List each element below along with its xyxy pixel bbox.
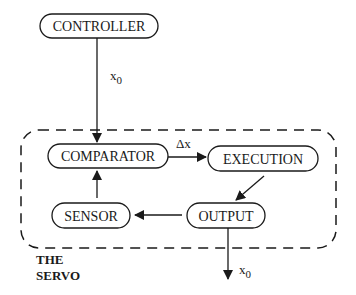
execution-node: EXECUTION xyxy=(208,146,318,171)
arrow-execution-to-output xyxy=(236,176,264,200)
servo-diagram: CONTROLLER x0 COMPARATOR Δx EXECUTION OU… xyxy=(0,0,356,295)
sensor-label: SENSOR xyxy=(64,209,118,224)
x0-output-label: x0 xyxy=(239,262,252,280)
controller-label: CONTROLLER xyxy=(53,19,146,34)
output-node: OUTPUT xyxy=(187,203,265,228)
servo-title-line2: SERVO xyxy=(36,268,80,283)
comparator-node: COMPARATOR xyxy=(48,144,168,168)
delta-x-label: Δx xyxy=(176,136,191,151)
controller-node: CONTROLLER xyxy=(40,14,158,38)
sensor-node: SENSOR xyxy=(52,203,130,228)
x0-input-label: x0 xyxy=(110,68,123,86)
execution-label: EXECUTION xyxy=(223,152,303,167)
comparator-label: COMPARATOR xyxy=(61,149,156,164)
servo-title-line1: THE xyxy=(36,252,63,267)
output-label: OUTPUT xyxy=(198,209,254,224)
